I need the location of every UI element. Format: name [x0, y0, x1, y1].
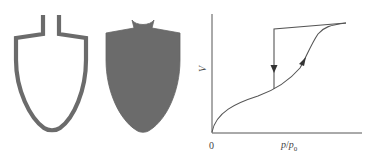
origin-label: 0: [209, 141, 214, 151]
desorption-branch: [274, 23, 346, 89]
pore-wall: [16, 15, 86, 130]
isotherm-chart: [212, 14, 362, 133]
arrow-down-icon: [271, 65, 278, 73]
pore-condensate: [106, 20, 180, 132]
ink-bottle-pore-empty: [16, 15, 86, 130]
figure: [0, 0, 371, 159]
y-axis-label: V: [198, 66, 208, 72]
adsorption-branch: [212, 23, 346, 132]
x-axis-sub: 0: [294, 145, 298, 153]
x-axis-label: p/p0: [281, 140, 297, 153]
ink-bottle-pore-filled: [106, 20, 180, 132]
arrow-up-icon: [299, 57, 306, 66]
